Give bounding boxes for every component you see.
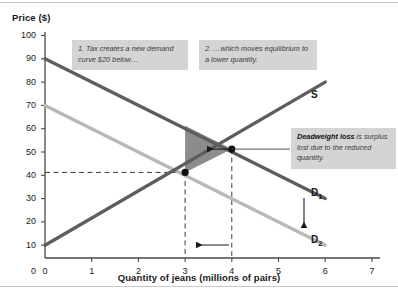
demand1-curve: [45, 59, 325, 199]
y-axis-title: Price ($): [12, 12, 50, 23]
supply-curve-label: S: [311, 89, 318, 100]
deadweight-loss-term: Deadweight loss: [297, 132, 355, 141]
x-tick-7: 7: [363, 267, 381, 276]
x-tick-2: 2: [129, 267, 147, 276]
y-tick-10: 10: [10, 241, 36, 250]
callout-tax-creates-new-demand: 1. Tax creates a new demand curve $20 be…: [72, 40, 188, 70]
x-tick-1: 1: [83, 267, 101, 276]
y-tick-20: 20: [10, 217, 36, 226]
x-tick-5: 5: [270, 267, 288, 276]
callout-moves-equilibrium: 2. …which moves equilibrium to a lower q…: [199, 40, 317, 70]
y-tick-40: 40: [10, 171, 36, 180]
x-axis-title: Quantity of jeans (millions of pairs): [0, 272, 398, 283]
demand2-curve-label: D2: [311, 234, 322, 248]
economics-supply-demand-figure: Price ($) Quantity of jeans (millions of…: [0, 0, 398, 298]
x-tick-0: 0: [36, 267, 54, 276]
y-tick-80: 80: [10, 78, 36, 87]
y-tick-90: 90: [10, 54, 36, 63]
demand1-curve-label: D1: [311, 187, 322, 201]
y-tick-60: 60: [10, 124, 36, 133]
supply-curve: [45, 82, 325, 245]
x-tick-3: 3: [176, 267, 194, 276]
demand1-label-sub: 1: [318, 192, 322, 201]
demand2-label-sub: 2: [318, 239, 322, 248]
callout-deadweight-loss: Deadweight loss is surplus lost due to t…: [291, 128, 396, 169]
y-tick-50: 50: [10, 148, 36, 157]
new-equilibrium-point: [182, 169, 189, 176]
y-tick-0: 0: [10, 267, 36, 276]
y-tick-70: 70: [10, 101, 36, 110]
y-tick-100: 100: [10, 31, 36, 40]
x-tick-6: 6: [316, 267, 334, 276]
y-tick-30: 30: [10, 194, 36, 203]
guide-lines: [45, 149, 232, 256]
x-tick-4: 4: [223, 267, 241, 276]
